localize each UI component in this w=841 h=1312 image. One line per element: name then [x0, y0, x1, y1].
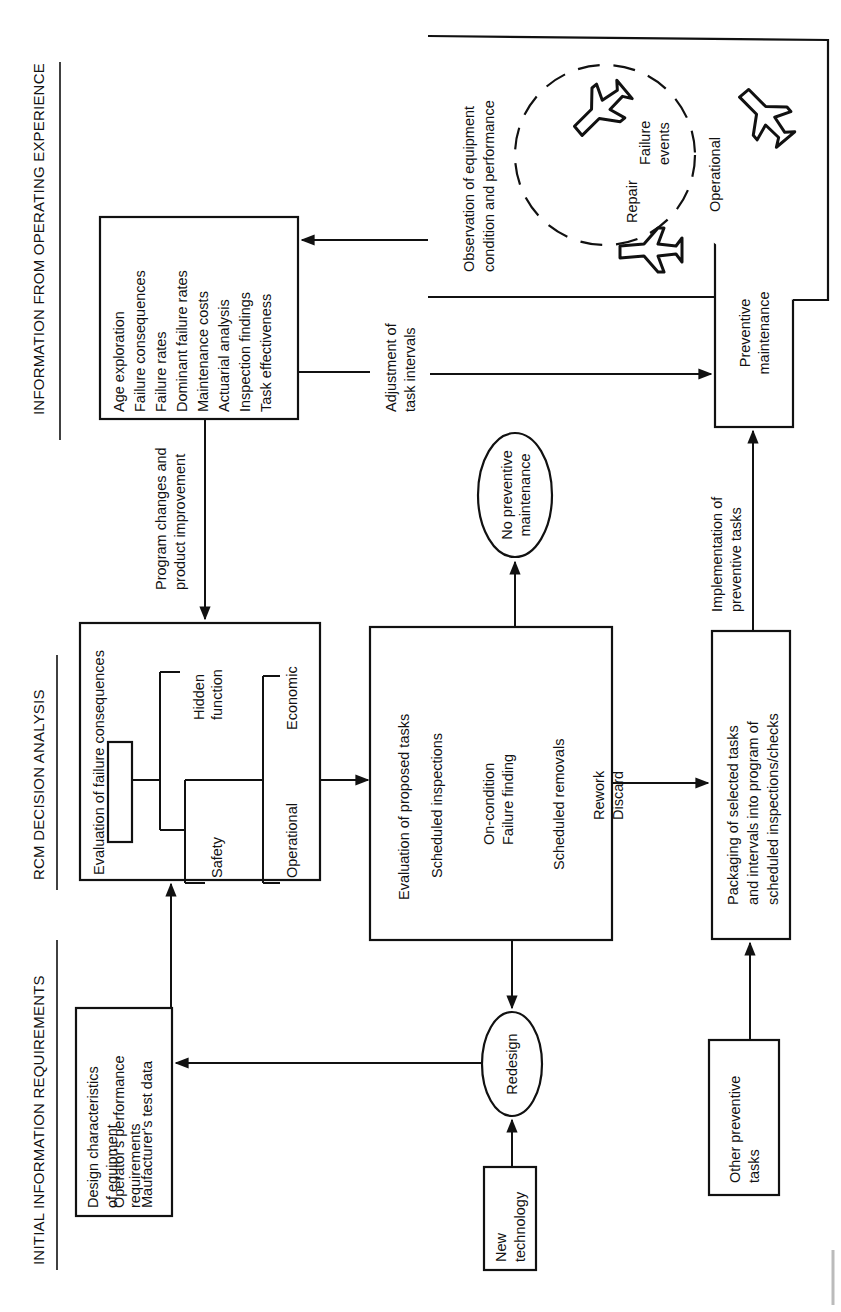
svg-text:Packaging of selected tasks: Packaging of selected tasks	[725, 725, 741, 905]
header-initial-information: INITIAL INFORMATION REQUIREMENTS	[30, 940, 57, 1270]
adjustment-label: Adjustment of task intervals	[383, 322, 418, 412]
svg-text:Program changes and: Program changes and	[153, 447, 169, 590]
svg-text:New: New	[493, 1232, 509, 1262]
observation-box: Observation of equipment condition and p…	[428, 36, 828, 300]
no-preventive-maintenance-ellipse: No preventive maintenance	[478, 433, 552, 557]
implementation-label: Implementation of preventive tasks	[709, 496, 744, 612]
initial-requirements-box: Design characteristics of equipment Oper…	[76, 1008, 172, 1216]
branch-safety: Safety	[209, 836, 225, 878]
svg-text:Dominant failure rates: Dominant failure rates	[174, 270, 190, 412]
svg-text:Failure finding: Failure finding	[500, 754, 516, 845]
svg-text:maintenance: maintenance	[756, 291, 772, 374]
svg-text:Preventive: Preventive	[737, 299, 753, 368]
redesign-ellipse: Redesign	[482, 1012, 542, 1116]
test-data-label: Maufacturer's test data	[139, 1060, 155, 1208]
svg-text:Other preventive: Other preventive	[727, 1076, 743, 1183]
svg-text:tasks: tasks	[746, 1149, 762, 1183]
svg-text:Adjustment of: Adjustment of	[383, 322, 399, 412]
header-initial-text: INITIAL INFORMATION REQUIREMENTS	[30, 975, 47, 1265]
branch-function: function	[209, 669, 225, 720]
cycle-operational: Operational	[707, 137, 723, 212]
jet-icon-repair	[620, 228, 682, 272]
svg-text:Age exploration: Age exploration	[111, 311, 127, 412]
header-rcm-text: RCM DECISION ANALYSIS	[30, 689, 47, 880]
tree-root-node	[108, 742, 132, 842]
svg-text:Inspection findings: Inspection findings	[237, 292, 253, 412]
proposed-tasks-box: Evaluation of proposed tasks Scheduled i…	[370, 627, 626, 940]
cycle-repair: Repair	[624, 180, 640, 223]
svg-text:Maintenance costs: Maintenance costs	[195, 291, 211, 412]
svg-text:maintenance: maintenance	[517, 453, 533, 536]
packaging-box: Packaging of selected tasks and interval…	[712, 631, 790, 939]
svg-text:Operator's performance: Operator's performance	[111, 1055, 127, 1208]
branch-operational: Operational	[284, 803, 300, 878]
operating-info-box: Age exploration Failure consequences Fai…	[100, 217, 298, 419]
svg-text:Scheduled inspections: Scheduled inspections	[429, 733, 445, 878]
svg-text:preventive tasks: preventive tasks	[728, 507, 744, 612]
svg-text:Rework: Rework	[591, 770, 607, 820]
svg-text:product improvement: product improvement	[172, 454, 188, 590]
svg-text:Actuarial analysis: Actuarial analysis	[216, 299, 232, 412]
rcm-process-diagram: INITIAL INFORMATION REQUIREMENTS RCM DEC…	[0, 0, 841, 1312]
svg-text:Failure rates: Failure rates	[153, 331, 169, 412]
svg-text:Task effectiveness: Task effectiveness	[258, 294, 274, 412]
new-technology-box: New technology	[484, 1167, 536, 1270]
svg-text:Discard: Discard	[610, 771, 626, 820]
branch-hidden: Hidden	[191, 674, 207, 720]
svg-text:Implementation of: Implementation of	[709, 496, 725, 612]
consequences-title: Evaluation of failure consequences	[91, 650, 107, 875]
failure-consequences-box: Evaluation of failure consequences Safet…	[80, 623, 320, 883]
cycle-events: events	[656, 122, 672, 165]
svg-text:No preventive: No preventive	[499, 450, 515, 539]
svg-text:task intervals: task intervals	[402, 327, 418, 412]
svg-text:Evaluation of proposed tasks: Evaluation of proposed tasks	[396, 714, 412, 900]
svg-text:scheduled inspections/checks: scheduled inspections/checks	[765, 713, 781, 905]
svg-text:Scheduled removals: Scheduled removals	[551, 739, 567, 870]
svg-text:Design characteristics: Design characteristics	[85, 1066, 101, 1208]
program-changes-label: Program changes and product improvement	[153, 447, 188, 590]
cycle-failure: Failure	[637, 121, 653, 165]
svg-text:and intervals into program of: and intervals into program of	[745, 720, 761, 905]
branch-economic: Economic	[284, 666, 300, 730]
other-preventive-tasks-box: Other preventive tasks	[709, 1040, 779, 1195]
header-operating-text: INFORMATION FROM OPERATING EXPERIENCE	[30, 63, 47, 415]
svg-text:technology: technology	[512, 1191, 528, 1262]
svg-text:condition and performance: condition and performance	[481, 100, 497, 272]
svg-text:On-condition: On-condition	[481, 763, 497, 845]
svg-text:Redesign: Redesign	[504, 1033, 520, 1094]
svg-text:Failure consequences: Failure consequences	[132, 270, 148, 412]
header-rcm-decision: RCM DECISION ANALYSIS	[30, 655, 57, 890]
header-operating-experience: INFORMATION FROM OPERATING EXPERIENCE	[30, 62, 60, 440]
svg-text:Observation of equipment: Observation of equipment	[461, 106, 477, 272]
